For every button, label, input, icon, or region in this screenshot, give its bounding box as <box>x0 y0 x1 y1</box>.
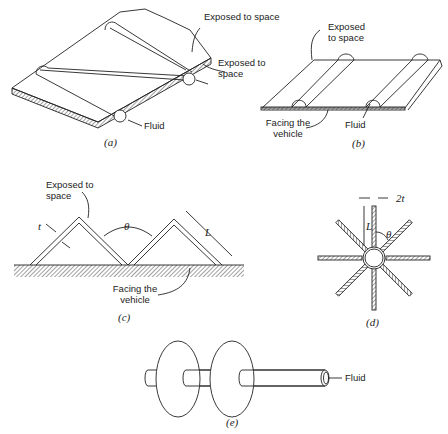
panel-b-facing-label: Facing the vehicle <box>264 118 312 139</box>
panel-e-drawing <box>145 341 342 417</box>
panel-c-exposed-label: Exposed to space <box>46 180 96 201</box>
panel-a-exposed-side-label: Exposed to space <box>218 58 266 79</box>
panel-b-fluid-label: Fluid <box>345 120 366 131</box>
panel-c-thickness-symbol: t <box>38 220 41 232</box>
panel-a-drawing <box>12 9 225 128</box>
panel-b-drawing <box>261 30 442 128</box>
panel-b-caption: (b) <box>352 137 365 149</box>
panel-c-theta-symbol: θ <box>124 220 129 232</box>
panel-a-exposed-top-label: Exposed to space <box>204 12 280 23</box>
panel-c-drawing <box>14 192 244 295</box>
panel-d-length-symbol: L <box>366 220 372 232</box>
panel-c-caption: (c) <box>118 311 130 323</box>
panel-c-length-symbol: L <box>205 226 211 238</box>
panel-c-facing-label: Facing the vehicle <box>112 284 158 305</box>
panel-d-drawing <box>318 198 430 310</box>
panel-a-caption: (a) <box>104 136 117 148</box>
panel-d-caption: (d) <box>366 316 379 328</box>
panel-e-caption: (e) <box>226 416 238 428</box>
panel-b-exposed-label: Exposed to space <box>328 22 374 43</box>
panel-e-fluid-label: Fluid <box>345 373 366 384</box>
panel-a-fluid-label: Fluid <box>144 121 165 132</box>
panel-d-theta-symbol: θ <box>386 228 391 240</box>
panel-d-two-t-symbol: 2t <box>396 192 405 204</box>
